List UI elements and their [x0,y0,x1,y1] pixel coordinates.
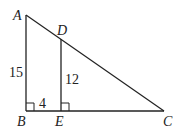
point-label-e: E [54,114,64,129]
point-label-a: A [12,8,22,23]
measure-be: 4 [39,96,46,111]
measure-ab: 15 [9,65,23,80]
point-label-c: C [163,114,173,129]
right-angle-mark-e [61,103,69,111]
measure-de: 12 [65,72,79,87]
point-label-d: D [56,23,67,38]
right-angle-mark-b [26,103,34,111]
segment-ac [26,15,164,111]
point-label-b: B [17,114,26,129]
triangle-diagram: A D B E C 15 12 4 [0,0,182,130]
